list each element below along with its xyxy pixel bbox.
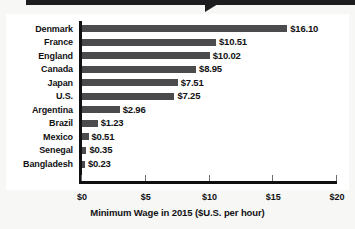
bar-value-label: $8.95	[199, 64, 222, 74]
bar	[82, 161, 85, 168]
bar-row: Brazil$1.23	[6, 118, 349, 131]
category-label: Japan	[0, 78, 73, 88]
x-axis-line	[79, 181, 337, 184]
bar-value-label: $0.23	[88, 159, 111, 169]
x-axis-tick	[81, 175, 82, 181]
category-label: Bangladesh	[0, 159, 73, 169]
bar-row: Japan$7.51	[6, 78, 349, 91]
bar-value-label: $1.23	[101, 118, 124, 128]
bar-value-label: $0.35	[89, 145, 112, 155]
bar-value-label: $7.51	[181, 78, 204, 88]
bar	[82, 106, 120, 113]
bar-row: Denmark$16.10	[6, 24, 349, 37]
bar-row: Mexico$0.51	[6, 132, 349, 145]
bar	[82, 120, 98, 127]
bar-row: Bangladesh$0.23	[6, 159, 349, 172]
x-axis-tick-label: $0	[62, 192, 102, 202]
category-label: Denmark	[0, 24, 73, 34]
bar	[82, 93, 174, 100]
x-axis-tick	[145, 175, 146, 181]
callout-banner	[26, 0, 355, 5]
x-axis-title: Minimum Wage in 2015 ($U.S. per hour)	[0, 207, 355, 218]
x-axis-tick-label: $10	[190, 192, 230, 202]
x-axis-tick-label: $20	[317, 192, 355, 202]
x-axis-tick-label: $5	[126, 192, 166, 202]
bar-row: England$10.02	[6, 51, 349, 64]
bar-row: U.S.$7.25	[6, 91, 349, 104]
x-axis-tick	[209, 175, 210, 181]
x-axis-tick	[272, 175, 273, 181]
bar	[82, 25, 287, 32]
bar-value-label: $2.96	[123, 105, 146, 115]
bar-value-label: $16.10	[290, 24, 318, 34]
bar-row: Argentina$2.96	[6, 105, 349, 118]
callout-banner-tail-icon	[205, 4, 218, 12]
category-label: Argentina	[0, 105, 73, 115]
category-label: Senegal	[0, 145, 73, 155]
bar	[82, 66, 196, 73]
category-label: France	[0, 37, 73, 47]
bar-value-label: $10.51	[219, 37, 247, 47]
bar-value-label: $7.25	[177, 91, 200, 101]
plot-area: Denmark$16.10France$10.51England$10.02Ca…	[6, 14, 349, 190]
bar	[82, 133, 89, 140]
bar-row: France$10.51	[6, 37, 349, 50]
category-label: Canada	[0, 64, 73, 74]
bar	[82, 52, 210, 59]
x-axis-tick	[336, 175, 337, 181]
category-label: Brazil	[0, 118, 73, 128]
bar	[82, 39, 216, 46]
category-label: U.S.	[0, 91, 73, 101]
x-axis-tick-label: $15	[253, 192, 293, 202]
category-label: England	[0, 51, 73, 61]
bar-row: Canada$8.95	[6, 64, 349, 77]
bar	[82, 79, 178, 86]
category-label: Mexico	[0, 132, 73, 142]
bar-value-label: $10.02	[213, 51, 241, 61]
bar-row: Senegal$0.35	[6, 145, 349, 158]
bar	[82, 147, 86, 154]
bar-value-label: $0.51	[92, 132, 115, 142]
chart-panel: Denmark$16.10France$10.51England$10.02Ca…	[6, 14, 349, 190]
